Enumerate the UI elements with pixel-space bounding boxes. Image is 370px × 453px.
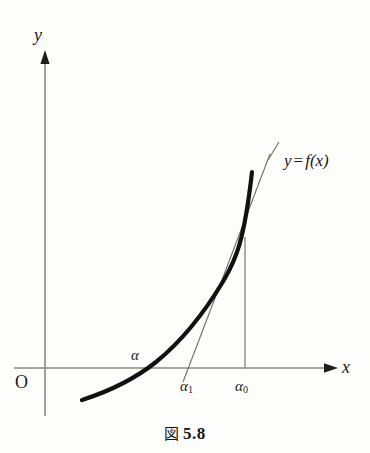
caption-number: 5.8 — [183, 424, 206, 443]
x-axis — [14, 363, 338, 373]
alpha1-symbol: α — [180, 378, 188, 394]
curve-label-equals: = — [292, 151, 306, 170]
alpha1-label: α1 — [180, 379, 193, 395]
y-axis-label: y — [34, 26, 42, 44]
origin-label: O — [15, 373, 28, 391]
alpha1-subscript: 1 — [188, 384, 193, 395]
alpha0-subscript: 0 — [243, 384, 248, 395]
figure-caption: 図5.8 — [0, 422, 370, 444]
x-axis-arrowhead — [324, 363, 338, 373]
alpha0-label: α0 — [235, 379, 248, 395]
curve-label-leader — [268, 142, 279, 160]
root-alpha-label: α — [131, 348, 139, 363]
x-axis-label: x — [342, 358, 350, 376]
curve-label-y: y — [284, 151, 292, 170]
y-axis-arrowhead — [40, 50, 49, 64]
function-curve — [82, 172, 252, 400]
curve-label-argument: (x) — [310, 151, 329, 170]
caption-prefix: 図 — [164, 426, 183, 442]
alpha0-symbol: α — [235, 378, 243, 394]
figure-container: y x O α α1 α0 y=f(x) 図5.8 — [0, 0, 370, 453]
y-axis — [40, 50, 49, 416]
curve-equation-label: y=f(x) — [284, 152, 329, 169]
tangent-line — [183, 154, 270, 382]
